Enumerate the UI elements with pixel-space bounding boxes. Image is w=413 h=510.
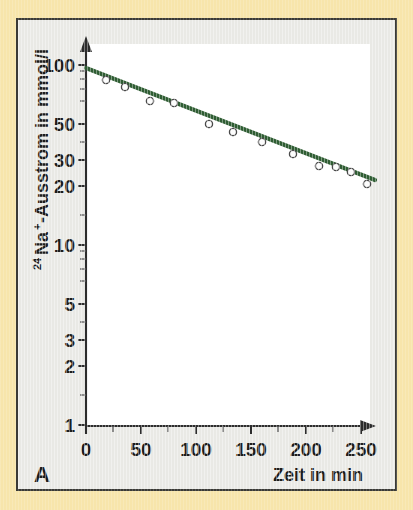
x-tick-label-200: 200 (290, 439, 322, 460)
data-point (363, 180, 370, 187)
data-point (315, 162, 322, 169)
y-tick-label-50: 50 (54, 114, 75, 135)
x-tick-label-50: 50 (130, 439, 151, 460)
plot-area-background (86, 44, 370, 426)
data-point (205, 120, 212, 127)
data-point (289, 150, 296, 157)
y-tick-label-2: 2 (64, 356, 75, 377)
chart-svg: 100 50 30 20 10 5 3 2 1 (18, 20, 395, 489)
figure-panel: 100 50 30 20 10 5 3 2 1 (16, 18, 397, 491)
y-tick-label-3: 3 (64, 330, 75, 351)
y-axis-title-rest: -Ausstrom in mmol/l (32, 49, 52, 223)
panel-letter: A (34, 462, 50, 487)
data-point (146, 97, 153, 104)
data-point (332, 163, 339, 170)
y-major-ticks (78, 65, 86, 425)
x-tick-label-250: 250 (345, 439, 377, 460)
y-tick-label-30: 30 (54, 150, 75, 171)
y-tick-label-10: 10 (54, 235, 75, 256)
y-axis-title-charge: + (31, 224, 43, 230)
data-point (229, 128, 236, 135)
x-tick-label-100: 100 (180, 439, 212, 460)
y-axis-title-element: Na (32, 231, 52, 255)
figure-root: 100 50 30 20 10 5 3 2 1 (0, 0, 413, 510)
data-point (347, 168, 354, 175)
x-tick-label-150: 150 (235, 439, 267, 460)
x-axis: 0 50 100 150 200 250 (81, 420, 377, 460)
y-tick-label-1: 1 (64, 415, 75, 436)
y-tick-label-5: 5 (64, 294, 75, 315)
x-tick-label-0: 0 (81, 439, 92, 460)
data-point (258, 138, 265, 145)
data-point (121, 83, 128, 90)
data-point (170, 99, 177, 106)
y-axis-title: 24 Na + -Ausstrom in mmol/l (31, 49, 52, 270)
x-axis-title: Zeit in min (273, 465, 363, 485)
data-point (102, 76, 109, 83)
y-tick-label-20: 20 (54, 176, 75, 197)
y-axis-title-superscript: 24 (31, 257, 43, 270)
